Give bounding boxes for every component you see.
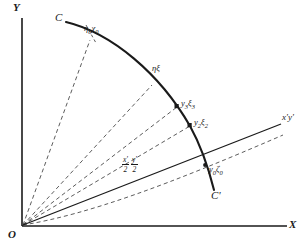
curve-end-label: C' bbox=[211, 190, 221, 201]
ray-to-eta0chi0 bbox=[23, 40, 90, 225]
marker-y2xi2 bbox=[188, 123, 192, 127]
marker-y3xi3 bbox=[175, 104, 179, 108]
point-label-eta0chi0: η0χ0 bbox=[84, 24, 98, 35]
curve-start-label: C bbox=[55, 12, 62, 23]
point-label-y0zeta0: y0ζ0 bbox=[209, 165, 223, 176]
fraction-labels: x' 2 y' 2 bbox=[122, 156, 138, 174]
oblique-axis-label: x'y' bbox=[282, 113, 294, 122]
ray-to-y2xi2 bbox=[23, 126, 190, 225]
fraction-numerator: y' bbox=[131, 156, 138, 164]
fraction-x-prime-half: x' 2 bbox=[122, 156, 129, 174]
fraction-denominator: 2 bbox=[132, 166, 138, 174]
fraction-y-prime-half: y' 2 bbox=[131, 156, 138, 174]
point-label-y3xi3: y3ξ3 bbox=[181, 99, 195, 110]
dashed-secant bbox=[23, 135, 283, 225]
ray-to-y3xi3 bbox=[23, 107, 177, 225]
fraction-denominator: 2 bbox=[123, 166, 129, 174]
point-label-y2xi2: y2ξ2 bbox=[194, 118, 208, 129]
y-axis-label: Y bbox=[13, 2, 20, 13]
marker-y0zeta0 bbox=[203, 163, 207, 167]
origin-label: O bbox=[8, 229, 16, 240]
figure-canvas bbox=[0, 0, 303, 249]
oblique-axis-line bbox=[23, 124, 281, 225]
fraction-numerator: x' bbox=[122, 156, 129, 164]
x-axis-label: X bbox=[289, 219, 296, 230]
geometry-figure: Y X O x'y' C C' η0χ0 ηξ y3ξ3 y2ξ2 y0ζ0 x… bbox=[0, 0, 303, 249]
point-label-etaxi: ηξ bbox=[152, 64, 160, 73]
